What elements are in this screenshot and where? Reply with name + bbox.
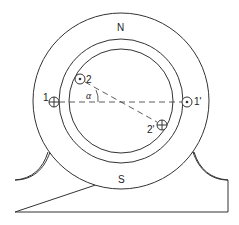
coil-1-label: 1: [43, 92, 49, 103]
angle-alpha-label: α: [86, 90, 92, 101]
coil-1-cross-icon: [49, 97, 59, 107]
coil-2-dot-icon: [75, 74, 85, 84]
coil-2prime-label: 2': [147, 124, 155, 135]
coil-1prime-label: 1': [194, 96, 202, 107]
south-pole-label: S: [118, 174, 125, 185]
coil-2prime-cross-icon: [157, 120, 167, 130]
coil-1prime-dot-icon: [182, 97, 192, 107]
base-left-curve: [15, 152, 50, 180]
coil-2-label: 2: [86, 74, 92, 85]
motor-diagram: N S 1 1' 2 2' α: [0, 0, 239, 225]
base-right-curve: [193, 152, 228, 180]
north-pole-label: N: [117, 22, 124, 33]
